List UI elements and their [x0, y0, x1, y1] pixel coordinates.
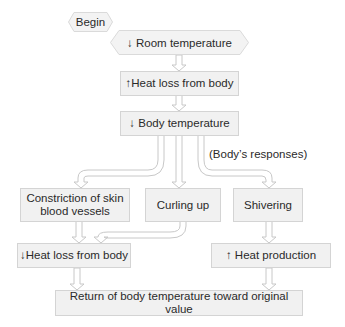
body-temperature-label: ↓ Body temperature — [129, 117, 229, 130]
begin-label: Begin — [76, 16, 105, 28]
curling-up-node: Curling up — [145, 188, 221, 222]
heat-loss-increase-node: ↑Heat loss from body — [120, 71, 239, 96]
return-label: Return of body temperature toward origin… — [56, 290, 302, 316]
body-responses-note: (Body’s responses) — [209, 148, 307, 160]
heat-production-label: ↑ Heat production — [226, 249, 316, 262]
begin-node: Begin — [68, 12, 113, 32]
heat-production-node: ↑ Heat production — [211, 243, 331, 268]
constriction-node: Constriction of skin blood vessels — [20, 188, 130, 222]
room-temperature-node: ↓ Room temperature — [110, 30, 249, 55]
return-node: Return of body temperature toward origin… — [55, 290, 303, 316]
shivering-label: Shivering — [244, 199, 292, 212]
room-temperature-label: ↓ Room temperature — [127, 37, 232, 49]
constriction-label: Constriction of skin blood vessels — [25, 192, 125, 218]
shivering-node: Shivering — [233, 188, 303, 222]
curling-up-label: Curling up — [157, 199, 209, 212]
body-temperature-node: ↓ Body temperature — [120, 111, 239, 136]
heat-loss-decrease-label: ↓Heat loss from body — [20, 249, 128, 262]
heat-loss-increase-label: ↑Heat loss from body — [125, 77, 233, 90]
heat-loss-decrease-node: ↓Heat loss from body — [17, 243, 131, 268]
